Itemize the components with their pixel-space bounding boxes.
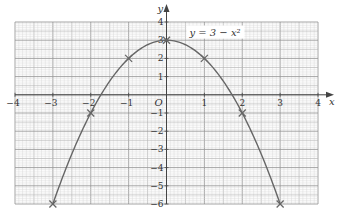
- x-tick-label: −3: [44, 98, 58, 108]
- x-tick-label: −2: [82, 98, 95, 108]
- y-tick-label: 4: [158, 17, 164, 27]
- axes: x y O: [15, 3, 335, 204]
- x-tick-label: −1: [120, 98, 133, 108]
- parabola-chart: x y O −4−3−2−11234 4321−1−2−3−4−5−6 y = …: [0, 0, 338, 216]
- y-tick-label: −3: [150, 144, 164, 154]
- x-tick-label: 3: [277, 98, 283, 108]
- origin-label: O: [155, 97, 163, 108]
- y-tick-label: −1: [150, 108, 163, 118]
- x-tick-label: 4: [315, 98, 321, 108]
- x-tick-label: 1: [202, 98, 208, 108]
- y-tick-label: −4: [150, 163, 164, 173]
- x-tick-label: −4: [6, 98, 20, 108]
- y-axis-label: y: [157, 3, 164, 14]
- y-tick-label: −2: [150, 126, 163, 136]
- curve-equation-label: y = 3 − x²: [188, 27, 240, 38]
- x-tick-label: 2: [239, 98, 245, 108]
- y-tick-label: 1: [158, 72, 164, 82]
- annotations: y = 3 − x²: [186, 26, 244, 39]
- x-axis-label: x: [329, 96, 335, 107]
- y-tick-label: 2: [158, 53, 164, 63]
- y-tick-label: −6: [150, 199, 164, 209]
- y-axis-arrow-icon: [164, 4, 170, 12]
- y-tick-label: −5: [150, 181, 164, 191]
